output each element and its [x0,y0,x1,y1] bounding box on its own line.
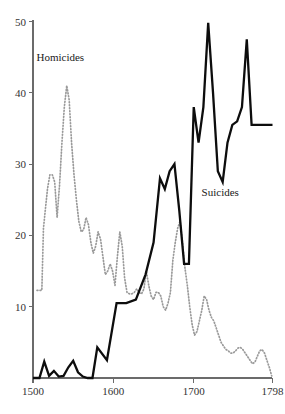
chart-container: 1020304050 1500160017001798 HomicidesSui… [0,0,285,414]
y-tick-group: 1020304050 [15,16,33,313]
y-tick-label: 30 [15,158,27,170]
series-line-suicides [33,23,273,378]
x-tick-label: 1600 [102,385,125,397]
y-tick-label: 50 [15,16,27,28]
homicides-suicides-line-chart: 1020304050 1500160017001798 HomicidesSui… [0,0,285,414]
x-tick-label: 1500 [22,385,45,397]
y-tick-label: 40 [15,87,27,99]
x-tick-label: 1700 [183,385,206,397]
series-label-suicides: Suicides [202,186,239,198]
series-label-homicides: Homicides [36,51,84,63]
series-group [33,23,273,378]
annotation-group: HomicidesSuicides [36,51,238,198]
x-tick-label: 1798 [262,385,285,397]
x-tick-group: 1500160017001798 [22,378,284,397]
y-tick-label: 10 [15,301,27,313]
y-tick-label: 20 [15,229,27,241]
